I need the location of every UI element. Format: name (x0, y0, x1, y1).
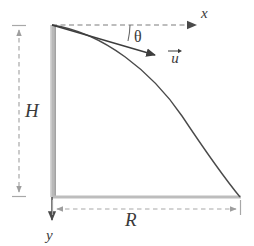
velocity-symbol: u (168, 51, 182, 66)
vector-overarrow-icon (168, 48, 182, 52)
range-dimension-line (53, 200, 241, 215)
angle-arc (128, 25, 130, 41)
y-axis-label: y (46, 228, 53, 243)
trajectory-curve (52, 25, 240, 197)
velocity-vector-label: u (168, 48, 182, 66)
range-label: R (125, 210, 137, 229)
height-dimension-line (12, 26, 26, 197)
wall-highlight (50, 25, 52, 197)
projectile-motion-figure: x y H R θ u (0, 0, 254, 246)
wall-shadow (55, 25, 56, 197)
wall-graphic (50, 25, 56, 197)
height-label: H (25, 101, 39, 120)
x-axis-label: x (201, 6, 208, 21)
angle-label: θ (134, 29, 142, 45)
